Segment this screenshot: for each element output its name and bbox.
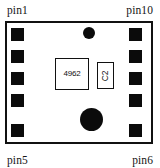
mounting-hole-bottom	[80, 108, 103, 131]
pin-label-top-left: pin1	[7, 4, 28, 16]
pad-pin10	[129, 28, 142, 41]
component-capacitor-label: C2	[102, 70, 110, 80]
component-ic-outline: 4962	[55, 58, 89, 90]
component-ic-label: 4962	[64, 70, 81, 78]
pad-pin7	[129, 94, 142, 107]
pad-pin8	[129, 72, 142, 85]
pad-pin9	[129, 50, 142, 63]
pad-pin5	[11, 124, 24, 137]
pad-pin3	[11, 72, 24, 85]
component-capacitor-outline: C2	[97, 62, 114, 89]
via-top	[83, 27, 95, 39]
pin-label-top-right: pin10	[126, 4, 153, 16]
pin-label-bottom-left: pin5	[7, 154, 28, 166]
pad-pin2	[11, 50, 24, 63]
pcb-footprint-diagram: pin1 pin10 pin5 pin6 4962 C2	[0, 0, 160, 168]
pin-label-bottom-right: pin6	[132, 154, 153, 166]
pad-pin1	[11, 28, 24, 41]
pad-pin6	[129, 124, 142, 137]
pad-pin4	[11, 94, 24, 107]
